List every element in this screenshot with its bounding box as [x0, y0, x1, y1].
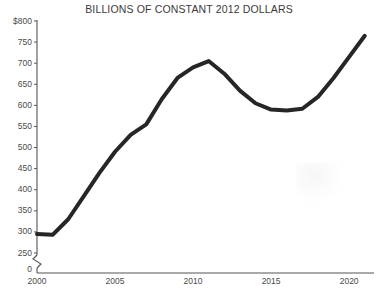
chart-series-group — [37, 36, 365, 235]
y-axis-tick-label: 350 — [0, 205, 32, 215]
y-axis-tick-label: 450 — [0, 163, 32, 173]
x-axis-tick-label: 2005 — [97, 276, 133, 286]
x-axis-tick-label: 2010 — [175, 276, 211, 286]
chart-plot-area — [0, 0, 378, 293]
y-axis-tick-label: 550 — [0, 121, 32, 131]
y-axis-tick-label: 600 — [0, 100, 32, 110]
y-axis-tick-label: 0 — [8, 264, 32, 274]
y-axis-tick-label: 300 — [0, 226, 32, 236]
y-axis-tick-label: $800 — [0, 16, 32, 26]
chart-line-series — [37, 36, 365, 235]
y-axis-tick-label: 750 — [0, 37, 32, 47]
y-axis-tick-label: 500 — [0, 142, 32, 152]
x-axis-tick-label: 2015 — [253, 276, 289, 286]
y-axis-break-icon — [33, 255, 41, 268]
y-axis-tick-label: 650 — [0, 79, 32, 89]
y-axis-tick-label: 700 — [0, 58, 32, 68]
chart-axes — [33, 20, 374, 273]
x-axis-tick-label: 2000 — [19, 276, 55, 286]
chart-container: BILLIONS OF CONSTANT 2012 DOLLARS $80075… — [0, 0, 378, 293]
y-axis-tick-label: 400 — [0, 184, 32, 194]
x-axis-tick-label: 2020 — [331, 276, 367, 286]
y-axis-tick-label: 250 — [0, 248, 32, 258]
